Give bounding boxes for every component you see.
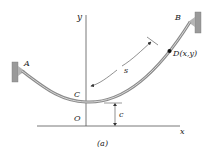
label-origin: O <box>74 114 81 123</box>
label-height-c: c <box>119 110 124 119</box>
cable <box>22 22 190 102</box>
label-arc-length: s <box>124 66 128 75</box>
catenary-diagram: y x A B C O D(x,y) s c (a) <box>0 0 209 154</box>
label-point-b: B <box>174 13 181 22</box>
label-x-axis: x <box>180 127 185 136</box>
point-d-dot <box>168 49 172 53</box>
label-y-axis: y <box>76 12 83 22</box>
label-point-a: A <box>23 59 30 68</box>
figure-caption: (a) <box>97 139 108 148</box>
label-point-c: C <box>74 90 80 99</box>
label-point-d: D(x,y) <box>172 49 197 58</box>
arc-length-dimension <box>91 37 158 86</box>
